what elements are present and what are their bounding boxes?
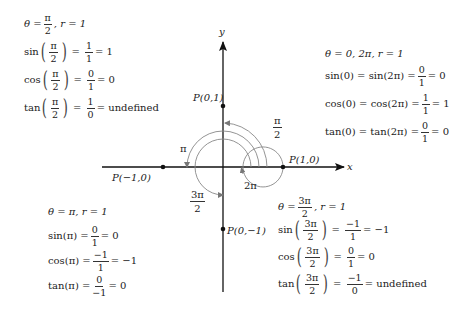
sin-row: sin(0) = sin(2π) = 01 = 0 bbox=[325, 64, 450, 88]
header-row: θ = π2 , r = 1 bbox=[24, 12, 159, 36]
tan-row: tan(π) = 0−1 = 0 bbox=[48, 274, 137, 298]
cos-row: cos (π2) = 01 = 0 bbox=[24, 68, 159, 92]
arc-half-pi bbox=[225, 123, 267, 167]
cos-row: cos(π) = −11 = −1 bbox=[48, 249, 137, 273]
tan-row: tan (3π2) = −10 = undefined bbox=[278, 272, 427, 296]
cos-row: cos (3π2) = 01 = 0 bbox=[278, 245, 427, 269]
point-label-0-neg1: P(0,−1) bbox=[227, 225, 266, 236]
block-zero-two-pi: θ = 0, 2π, r = 1 sin(0) = sin(2π) = 01 =… bbox=[325, 46, 450, 144]
tan-row: tan (π2) = 10 = undefined bbox=[24, 96, 159, 120]
cos-row: cos(0) = cos(2π) = 11 = 1 bbox=[325, 92, 450, 116]
x-axis-label: x bbox=[347, 161, 353, 172]
point-label-0-1: P(0,1) bbox=[193, 92, 223, 103]
point-0-neg1 bbox=[221, 227, 226, 232]
point-label-1-0: P(1,0) bbox=[289, 154, 319, 165]
block-three-half-pi: θ = 3π2 , r = 1 sin (3π2) = −11 = −1 cos… bbox=[278, 196, 427, 296]
tan-row: tan(0) = tan(2π) = 01 = 0 bbox=[325, 120, 450, 144]
sin-row: sin(π) = 01 = 0 bbox=[48, 224, 137, 248]
sin-row: sin (3π2) = −11 = −1 bbox=[278, 218, 427, 242]
header-row: θ = 0, 2π, r = 1 bbox=[325, 46, 450, 62]
block-pi: θ = π, r = 1 sin(π) = 01 = 0 cos(π) = −1… bbox=[48, 204, 137, 298]
block-half-pi: θ = π2 , r = 1 sin (π2) = 11 = 1 cos (π2… bbox=[24, 12, 159, 120]
point-1-0 bbox=[281, 165, 286, 170]
arc-label-three-half-pi: 3π 2 bbox=[190, 189, 205, 214]
point-label-neg1-0: P(−1,0) bbox=[112, 172, 151, 183]
header-row: θ = π, r = 1 bbox=[48, 204, 137, 220]
sin-row: sin (π2) = 11 = 1 bbox=[24, 40, 159, 64]
y-axis-label: y bbox=[219, 26, 225, 37]
point-neg1-0 bbox=[161, 165, 166, 170]
point-0-1 bbox=[221, 104, 226, 109]
arc-label-half-pi: π 2 bbox=[273, 115, 282, 140]
arc-label-two-pi: 2π bbox=[244, 180, 257, 191]
header-row: θ = 3π2 , r = 1 bbox=[278, 196, 427, 218]
arc-label-pi: π bbox=[180, 143, 187, 154]
